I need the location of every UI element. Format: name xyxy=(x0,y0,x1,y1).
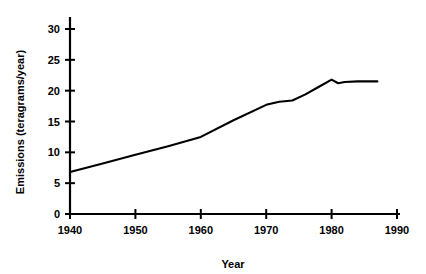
y-tick-label: 10 xyxy=(48,146,60,158)
x-axis-tick-labels: 194019501960197019801990 xyxy=(58,224,409,236)
data-line-emissions xyxy=(70,80,377,173)
x-tick-label: 1990 xyxy=(385,224,409,236)
line-chart: Emissions (teragrams/year) Year 05101520… xyxy=(0,0,426,274)
y-tick-label: 20 xyxy=(48,85,60,97)
y-axis-title: Emissions (teragrams/year) xyxy=(14,50,26,195)
y-tick-label: 5 xyxy=(54,177,60,189)
x-tick-label: 1950 xyxy=(123,224,147,236)
x-tick-label: 1960 xyxy=(189,224,213,236)
chart-container: Emissions (teragrams/year) Year 05101520… xyxy=(0,0,426,274)
y-tick-label: 0 xyxy=(54,208,60,220)
data-series-group xyxy=(70,80,377,173)
y-tick-label: 25 xyxy=(48,54,60,66)
y-axis-tick-labels: 051015202530 xyxy=(48,23,60,220)
x-tick-label: 1940 xyxy=(58,224,82,236)
y-tick-label: 30 xyxy=(48,23,60,35)
x-axis-title: Year xyxy=(221,258,245,270)
y-tick-label: 15 xyxy=(48,116,60,128)
x-tick-label: 1980 xyxy=(319,224,343,236)
x-tick-label: 1970 xyxy=(254,224,278,236)
